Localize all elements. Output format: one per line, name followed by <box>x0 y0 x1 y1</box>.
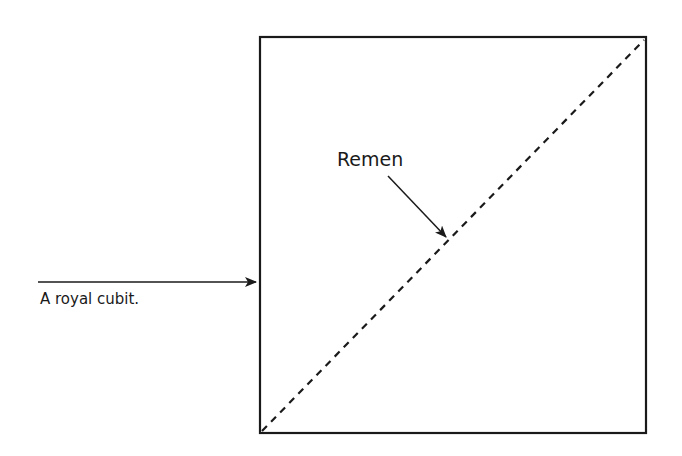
remen-label: Remen <box>337 148 403 170</box>
diagram-canvas <box>0 0 682 456</box>
cubit-label: A royal cubit. <box>40 290 139 308</box>
dashed-diagonal <box>262 40 644 431</box>
remen-arrow <box>388 176 446 237</box>
